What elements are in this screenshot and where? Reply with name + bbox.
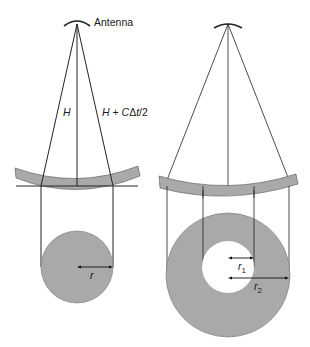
annular-footprint-panel: r1 r2 <box>159 24 298 337</box>
altimeter-footprint-diagram: Antenna H H + CΔt/2 r <box>0 0 310 347</box>
pulse-limited-footprint-panel: Antenna H H + CΔt/2 r <box>15 16 148 303</box>
slant-range-right-line <box>77 24 113 186</box>
slant-range-left-line <box>41 24 77 186</box>
inner-hole <box>202 241 254 293</box>
ocean-surface-band <box>159 174 298 196</box>
height-label: H <box>63 106 71 118</box>
beam-left-line <box>167 24 228 180</box>
slant-range-label: H + CΔt/2 <box>102 106 148 118</box>
antenna-label: Antenna <box>94 16 133 28</box>
beam-right-line <box>228 24 289 180</box>
radius-label: r <box>90 269 94 281</box>
